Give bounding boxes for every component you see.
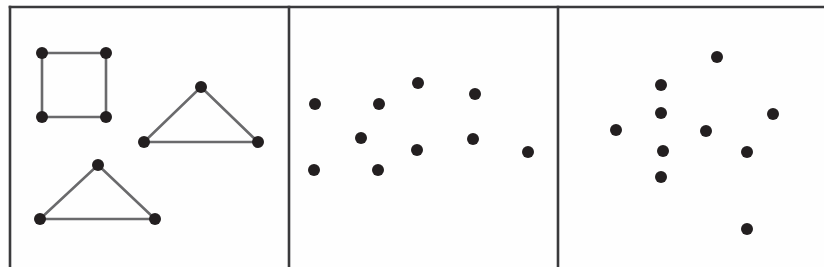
scatter-dot [655, 107, 667, 119]
scatter-dot [522, 146, 534, 158]
scatter-dot [308, 164, 320, 176]
scatter-dot [657, 145, 669, 157]
scatter-dot [767, 108, 779, 120]
lower-left-triangle-vertex-dot [92, 159, 104, 171]
scatter-dot [355, 132, 367, 144]
scatter-dot [610, 124, 622, 136]
figure-background [0, 0, 824, 267]
scatter-dot [372, 164, 384, 176]
scatter-dot [711, 51, 723, 63]
scatter-dot [412, 77, 424, 89]
scatter-dot [469, 88, 481, 100]
square-vertex-dot [36, 111, 48, 123]
scatter-dot [655, 171, 667, 183]
upper-right-triangle-vertex-dot [195, 81, 207, 93]
lower-left-triangle-vertex-dot [34, 213, 46, 225]
scatter-dot [309, 98, 321, 110]
square-vertex-dot [100, 111, 112, 123]
figure-root [0, 0, 824, 267]
square-vertex-dot [36, 47, 48, 59]
scatter-dot [411, 144, 423, 156]
lower-left-triangle-vertex-dot [149, 213, 161, 225]
scatter-dot [467, 133, 479, 145]
upper-right-triangle-vertex-dot [138, 136, 150, 148]
square-vertex-dot [100, 47, 112, 59]
figure-canvas [0, 0, 824, 267]
upper-right-triangle-vertex-dot [252, 136, 264, 148]
scatter-dot [700, 125, 712, 137]
scatter-dot [741, 146, 753, 158]
scatter-dot [741, 223, 753, 235]
scatter-dot [655, 79, 667, 91]
scatter-dot [373, 98, 385, 110]
